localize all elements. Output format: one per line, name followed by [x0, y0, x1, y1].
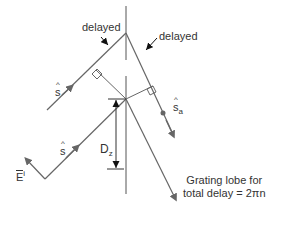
delayed-label-right: delayed: [159, 30, 198, 42]
delayed-label-left: delayed: [82, 21, 121, 33]
scattered-ray-sa: [126, 33, 172, 132]
dz-label: Dz: [100, 143, 113, 160]
lower-incident-ray: [45, 99, 126, 179]
s-hat-lower-arrow: [66, 147, 77, 158]
sa-arrow: [166, 120, 173, 135]
upper-incident-ray: [47, 33, 126, 110]
dz-arrow-top: [113, 100, 120, 107]
e-field-arrow: [27, 160, 45, 179]
perpendicular-upper: [96, 70, 126, 99]
s-hat-upper-label: s: [55, 86, 61, 98]
delayed-left-pointer: [101, 37, 108, 45]
s-a-label: sa: [173, 101, 183, 118]
grating-lobe-ray: [126, 99, 175, 198]
sa-dot: [161, 111, 166, 116]
grating-lobe-caption: Grating lobe for total delay = 2πn: [183, 174, 266, 200]
delayed-right-pointer: [146, 38, 157, 50]
e-incident-label: Ei: [16, 168, 25, 183]
s-hat-upper-arrow: [62, 87, 71, 95]
s-hat-lower-label: s: [60, 145, 66, 157]
dz-arrow-bottom: [113, 161, 120, 168]
